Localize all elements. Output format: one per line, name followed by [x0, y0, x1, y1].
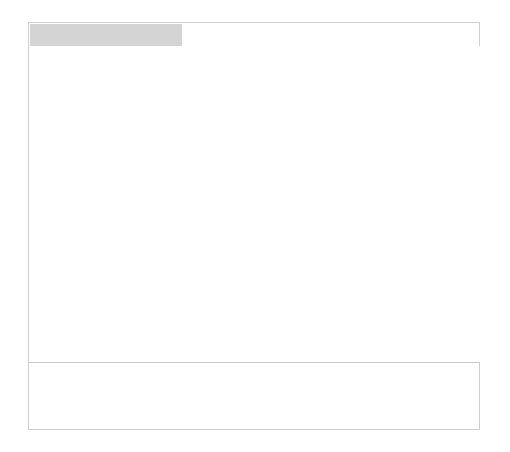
caption-divider — [29, 362, 479, 363]
chart-plot-area — [30, 46, 480, 362]
figure-card — [28, 22, 480, 430]
figure-header-band — [30, 24, 182, 46]
bubble-chart — [30, 46, 480, 362]
